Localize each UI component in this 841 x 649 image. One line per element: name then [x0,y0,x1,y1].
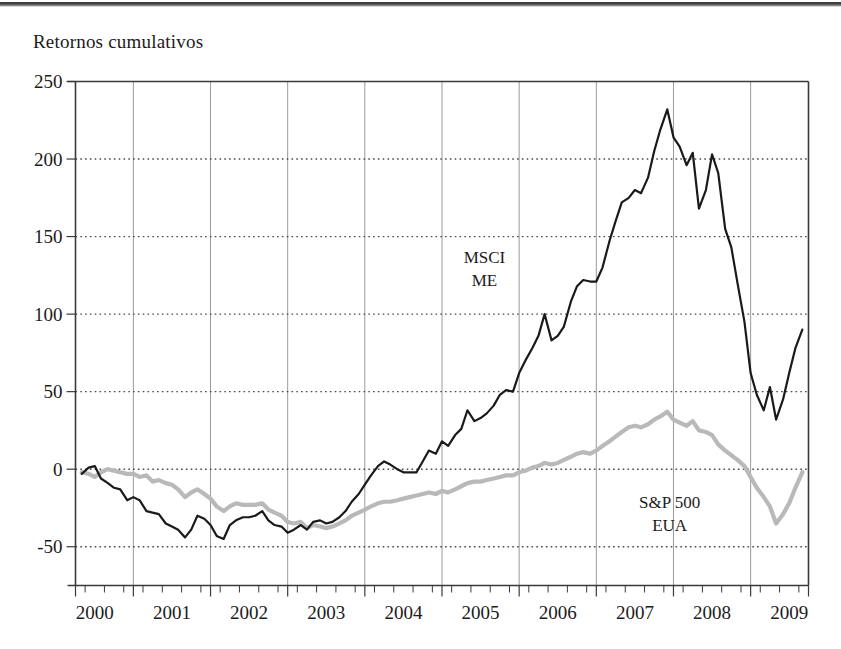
x-tick-label: 2009 [770,602,808,623]
x-tick-label: 2000 [76,602,114,623]
x-tick-label: 2003 [307,602,345,623]
x-tick-label: 2004 [384,602,423,623]
y-tick-label: 150 [34,226,63,247]
series-annotation-line1: MSCI [464,248,506,267]
y-axis-tick-labels: 250200150100500-50 [34,71,76,557]
page-canvas: Retornos cumulativos 250200150100500-50 … [0,0,841,649]
y-tick-label: 50 [44,381,63,402]
series-annotation-line2: EUA [652,516,688,535]
y-tick-label: 0 [53,459,63,480]
y-tick-label: 200 [34,149,63,170]
x-axis-tick-labels: 2000200120022003200420052006200720082009 [76,602,808,623]
cumulative-returns-chart: 250200150100500-50 200020012002200320042… [0,0,841,649]
x-axis-minor-ticks [76,586,809,597]
y-tick-label: 250 [34,71,63,92]
series-annotation-line1: S&P 500 [639,493,700,512]
y-tick-label: 100 [34,304,63,325]
x-tick-label: 2002 [230,602,268,623]
x-tick-label: 2001 [153,602,191,623]
x-tick-label: 2005 [462,602,500,623]
x-tick-label: 2008 [693,602,731,623]
y-tick-label: -50 [37,536,62,557]
series-annotation-line2: ME [472,271,498,290]
x-tick-label: 2006 [539,602,577,623]
x-tick-label: 2007 [616,602,654,623]
